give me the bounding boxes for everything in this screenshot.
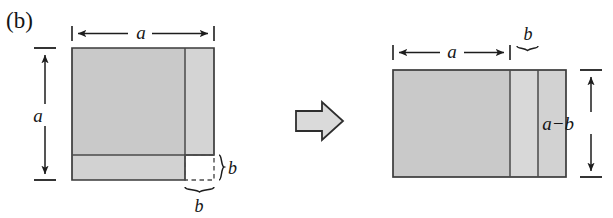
panel-label: (b) xyxy=(6,8,33,33)
left-side-dimension-label: a xyxy=(33,105,43,126)
figure-container: (b) a a b xyxy=(0,0,613,218)
main-square-body xyxy=(72,48,185,155)
left-right-b-label: b xyxy=(228,158,237,178)
middle-strip xyxy=(510,70,538,177)
right-top-a-label: a xyxy=(447,41,457,62)
right-top-b-label: b xyxy=(524,24,533,44)
left-bottom-b-label: b xyxy=(195,196,204,216)
geometry-figure: (b) a a b xyxy=(0,0,613,218)
right-side-dimension-label: a−b xyxy=(542,113,574,134)
wide-strip xyxy=(393,70,510,177)
left-top-dimension-label: a xyxy=(136,22,146,43)
right-vertical-strip xyxy=(185,48,214,155)
bottom-horizontal-strip xyxy=(72,155,185,180)
